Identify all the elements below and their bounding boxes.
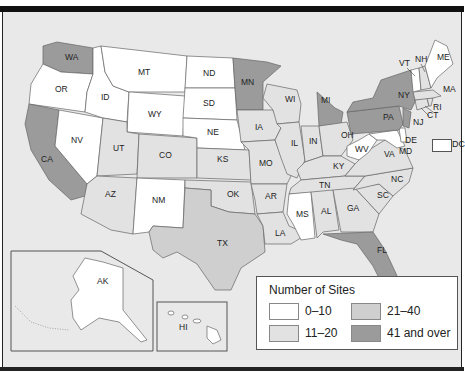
svg-text:FL: FL — [377, 245, 387, 255]
svg-text:PA: PA — [383, 112, 394, 122]
svg-text:MA: MA — [443, 84, 456, 94]
svg-text:OH: OH — [341, 130, 354, 140]
svg-text:ME: ME — [437, 52, 450, 62]
state-ME[interactable] — [425, 40, 453, 88]
svg-text:TN: TN — [319, 180, 330, 190]
legend-swatch-21-40 — [351, 303, 381, 320]
svg-text:WY: WY — [148, 109, 162, 119]
legend-label-41-over: 41 and over — [387, 326, 450, 340]
svg-text:AK: AK — [97, 276, 109, 286]
svg-text:CA: CA — [41, 154, 53, 164]
hawaii-inset-frame — [157, 302, 227, 351]
legend-label-0-10: 0–10 — [305, 304, 332, 318]
svg-text:VA: VA — [384, 149, 395, 159]
svg-text:KS: KS — [217, 154, 229, 164]
bottom-border — [0, 367, 464, 371]
svg-text:NY: NY — [398, 90, 410, 100]
svg-text:NJ: NJ — [413, 117, 423, 127]
svg-text:NC: NC — [391, 174, 403, 184]
state-MA[interactable] — [413, 90, 441, 100]
legend-swatch-11-20 — [269, 325, 299, 342]
svg-text:KY: KY — [333, 161, 345, 171]
svg-text:SD: SD — [203, 98, 215, 108]
svg-text:NE: NE — [207, 127, 219, 137]
state-NM[interactable] — [133, 178, 185, 234]
svg-text:SC: SC — [377, 190, 389, 200]
svg-text:MT: MT — [138, 67, 150, 77]
svg-text:HI: HI — [179, 322, 188, 332]
svg-text:TX: TX — [217, 238, 228, 248]
legend: Number of Sites 0–10 11–20 21–40 41 and … — [256, 276, 458, 350]
svg-text:IL: IL — [291, 138, 298, 148]
svg-text:WV: WV — [355, 144, 369, 154]
svg-text:IA: IA — [255, 122, 263, 132]
legend-swatch-41-over — [351, 325, 381, 342]
svg-text:AL: AL — [321, 206, 332, 216]
svg-text:RI: RI — [433, 102, 442, 112]
svg-text:MO: MO — [259, 158, 273, 168]
svg-text:MS: MS — [296, 209, 309, 219]
svg-text:NM: NM — [152, 195, 165, 205]
svg-text:AZ: AZ — [105, 189, 116, 199]
svg-text:OR: OR — [55, 84, 68, 94]
state-AZ[interactable] — [81, 176, 137, 234]
svg-text:IN: IN — [309, 136, 318, 146]
legend-swatch-0-10 — [269, 303, 299, 320]
svg-text:ID: ID — [101, 92, 110, 102]
svg-text:MD: MD — [399, 146, 412, 156]
svg-text:NH: NH — [415, 54, 427, 64]
state-NJ[interactable] — [403, 108, 411, 128]
svg-text:UT: UT — [113, 143, 124, 153]
aleutian-islands — [15, 306, 69, 330]
legend-label-21-40: 21–40 — [387, 304, 420, 318]
legend-title: Number of Sites — [269, 283, 355, 297]
svg-text:DE: DE — [405, 135, 417, 145]
svg-text:WI: WI — [285, 94, 295, 104]
svg-text:OK: OK — [227, 189, 240, 199]
state-HI[interactable] — [168, 311, 221, 344]
dc-label: DC — [452, 139, 465, 149]
svg-text:ND: ND — [203, 68, 215, 78]
state-KS[interactable] — [197, 148, 251, 180]
legend-label-11-20: 11–20 — [305, 326, 337, 340]
svg-text:GA: GA — [347, 203, 360, 213]
dc-swatch[interactable] — [432, 139, 452, 152]
svg-text:WA: WA — [65, 52, 79, 62]
svg-text:LA: LA — [275, 228, 286, 238]
svg-text:AR: AR — [265, 191, 277, 201]
svg-text:VT: VT — [399, 58, 410, 68]
svg-text:MI: MI — [321, 95, 330, 105]
svg-text:NV: NV — [71, 135, 83, 145]
svg-text:MN: MN — [241, 77, 254, 87]
svg-text:CO: CO — [159, 150, 172, 160]
